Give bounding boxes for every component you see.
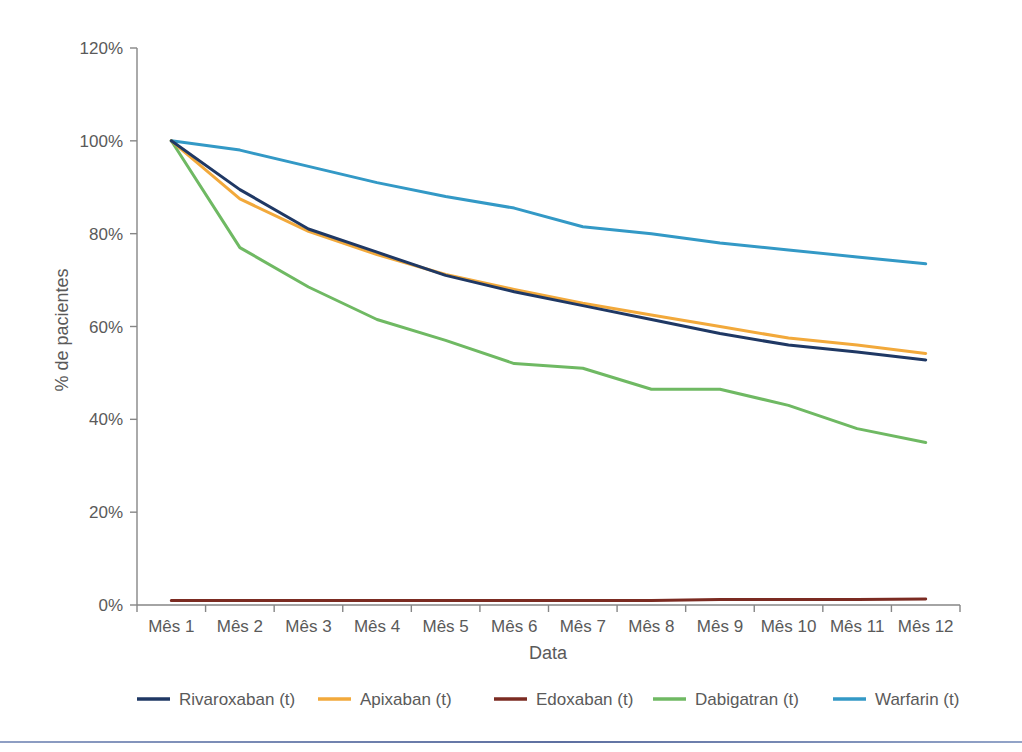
- x-tick-label: Mês 4: [354, 617, 400, 636]
- y-tick-label: 120%: [80, 39, 123, 58]
- x-tick-label: Mês 2: [217, 617, 263, 636]
- y-tick-label: 40%: [89, 410, 123, 429]
- legend-label-1: Rivaroxaban (t): [179, 690, 295, 709]
- y-tick-label: 80%: [89, 225, 123, 244]
- legend-label-3: Edoxaban (t): [536, 690, 633, 709]
- series-line-warfarin-t: [171, 141, 925, 264]
- line-chart-canvas: 0%20%40%60%80%100%120% Mês 1Mês 2Mês 3Mê…: [0, 0, 1022, 752]
- y-tick-label: 20%: [89, 503, 123, 522]
- x-tick-label: Mês 5: [422, 617, 468, 636]
- x-tick-label: Mês 11: [830, 617, 885, 636]
- x-tick-label: Mês 10: [761, 617, 817, 636]
- x-tick-label: Mês 1: [148, 617, 194, 636]
- y-tick-label: 100%: [80, 132, 123, 151]
- chart-legend: Rivaroxaban (t)Apixaban (t)Edoxaban (t)D…: [137, 690, 959, 709]
- x-tick-label: Mês 3: [285, 617, 331, 636]
- y-tick-label: 0%: [98, 596, 123, 615]
- footer-divider: [0, 741, 1022, 743]
- legend-label-2: Apixaban (t): [360, 690, 452, 709]
- legend-label-4: Dabigatran (t): [695, 690, 799, 709]
- x-tick-label: Mês 9: [697, 617, 743, 636]
- series-line-rivaroxaban-t: [171, 141, 925, 360]
- series-line-dabigatran-t: [171, 141, 925, 443]
- y-axis-title: % de pacientes: [52, 268, 72, 391]
- series-line-edoxaban-t: [171, 599, 925, 600]
- y-axis-tick-group: 0%20%40%60%80%100%120%: [80, 39, 137, 615]
- x-tick-label: Mês 6: [491, 617, 537, 636]
- series-group: [171, 141, 925, 601]
- x-axis-tick-group: Mês 1Mês 2Mês 3Mês 4Mês 5Mês 6Mês 7Mês 8…: [137, 605, 960, 636]
- series-line-apixaban-t: [171, 141, 925, 354]
- x-tick-label: Mês 8: [628, 617, 674, 636]
- chart-figure: 0%20%40%60%80%100%120% Mês 1Mês 2Mês 3Mê…: [0, 0, 1022, 752]
- x-tick-label: Mês 7: [560, 617, 606, 636]
- legend-label-5: Warfarin (t): [875, 690, 959, 709]
- y-tick-label: 60%: [89, 318, 123, 337]
- x-axis-title: Data: [529, 643, 568, 663]
- x-tick-label: Mês 12: [898, 617, 954, 636]
